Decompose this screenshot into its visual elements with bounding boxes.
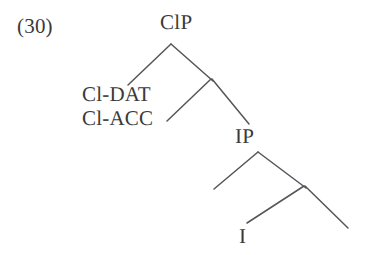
branch-junction-to-ip [212, 79, 249, 124]
tree-branch-lines [0, 0, 366, 255]
branch-clp-to-junction [171, 44, 213, 81]
branch-clp-to-cldat [128, 44, 171, 85]
example-number: (30) [17, 14, 53, 39]
node-label-i: I [239, 226, 246, 247]
node-label-cl-dat: Cl-DAT [82, 84, 151, 105]
syntax-tree-figure: (30) ClP Cl-DAT Cl-ACC IP I [0, 0, 366, 255]
node-label-ip: IP [235, 126, 254, 147]
branch-ip-to-junction [258, 152, 306, 188]
node-label-cl-acc: Cl-ACC [82, 108, 153, 129]
branch-junction-to-i [247, 186, 304, 223]
node-label-clp: ClP [160, 12, 192, 33]
branch-junction-to-complement [305, 186, 348, 228]
branch-ip-to-specifier [214, 152, 258, 189]
branch-junction-to-clacc [167, 79, 211, 121]
